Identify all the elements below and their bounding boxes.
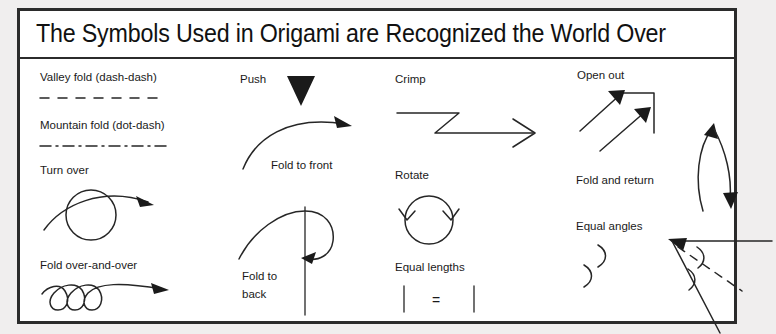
solid-down-triangle-icon [284,73,318,109]
label-equal-angles: Equal angles [576,220,643,232]
origami-symbols-panel: The Symbols Used in Origami are Recogniz… [17,8,737,324]
loop-around-line-arrow-icon [233,203,353,318]
page-title: The Symbols Used in Origami are Recogniz… [36,19,666,48]
label-mountain-fold: Mountain fold (dot-dash) [40,119,165,131]
label-turn-over: Turn over [40,164,89,176]
double-diagonal-arrows-bracket-icon [572,87,672,159]
title-divider [20,57,734,59]
circle-with-curved-arrow-icon [36,183,171,245]
label-push: Push [240,73,266,85]
label-fold-to-back-line2: back [242,288,266,300]
tick-equals-tick-icon [398,283,498,317]
label-fold-to-front: Fold to front [271,159,332,171]
dash-dot-line-icon [38,139,178,153]
label-rotate: Rotate [395,169,429,181]
angle-bisector-arcs-icon [660,229,776,334]
three-loops-arrow-icon [36,277,196,319]
dashed-line-icon [38,91,168,105]
label-fold-and-return: Fold and return [576,174,654,186]
double-headed-curved-arrow-icon [688,119,758,215]
circular-double-arrow-icon [396,189,462,251]
label-fold-to-back-line1: Fold to [242,270,277,282]
label-crimp: Crimp [395,73,426,85]
label-valley-fold: Valley fold (dash-dash) [40,71,157,83]
label-open-out: Open out [577,69,624,81]
label-fold-over-and-over: Fold over-and-over [40,259,137,271]
equals-sign: = [432,292,440,308]
label-equal-lengths: Equal lengths [395,261,465,273]
angle-arc-marks-icon [576,239,636,297]
zigzag-arrow-icon [393,99,543,149]
